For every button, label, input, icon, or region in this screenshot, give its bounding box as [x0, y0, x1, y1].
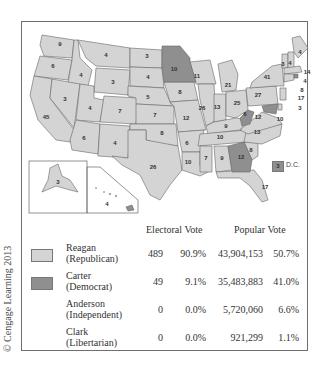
svg-text:27: 27	[255, 92, 262, 98]
svg-text:10: 10	[185, 159, 192, 165]
electoral-vote-header: Electoral Vote	[146, 224, 203, 235]
table-row-carter: Carter (Democrat) 49 9.1% 35,483,883 41.…	[21, 270, 308, 298]
candidate-party: (Republican)	[66, 253, 118, 264]
table-row-reagan: Reagan (Republican) 489 90.9% 43,904,153…	[21, 242, 308, 270]
popular-votes: 43,904,153	[218, 248, 263, 259]
state-fl	[216, 170, 268, 202]
svg-text:45: 45	[43, 114, 50, 120]
popular-pct: 50.7%	[273, 248, 299, 259]
electoral-votes: 49	[153, 276, 163, 287]
popular-votes: 5,720,060	[223, 304, 263, 315]
electoral-votes: 0	[158, 304, 163, 315]
electoral-votes: 0	[158, 332, 163, 343]
svg-text:10: 10	[171, 66, 178, 72]
popular-pct: 1.1%	[278, 332, 299, 343]
svg-text:10: 10	[217, 134, 224, 140]
svg-text:8: 8	[300, 87, 304, 93]
dc-swatch: 3	[272, 161, 284, 172]
electoral-votes: 489	[148, 248, 163, 259]
state-wa	[40, 35, 74, 58]
popular-pct: 6.6%	[278, 304, 299, 315]
carter-swatch	[31, 277, 53, 290]
results-table: Electoral Vote Popular Vote Reagan (Repu…	[21, 222, 308, 350]
svg-text:3: 3	[298, 105, 302, 111]
state-md	[262, 104, 278, 114]
candidate-party: (Democrat)	[66, 281, 112, 292]
electoral-pct: 90.9%	[180, 248, 206, 259]
svg-text:26: 26	[199, 105, 206, 111]
svg-text:17: 17	[262, 184, 269, 190]
candidate-name: Clark	[66, 326, 117, 337]
popular-vote-header: Popular Vote	[234, 224, 286, 235]
state-pa	[246, 86, 278, 106]
table-row-anderson: Anderson (Independent) 0 0.0% 5,720,060 …	[21, 298, 308, 326]
electoral-pct: 0.0%	[185, 304, 206, 315]
svg-text:4: 4	[303, 78, 307, 84]
popular-votes: 921,299	[231, 332, 264, 343]
popular-votes: 35,483,883	[218, 276, 263, 287]
svg-text:13: 13	[254, 129, 261, 135]
svg-text:10: 10	[277, 116, 284, 122]
svg-text:14: 14	[304, 69, 311, 75]
svg-text:12: 12	[238, 154, 245, 160]
svg-text:26: 26	[150, 164, 157, 170]
svg-text:4: 4	[105, 201, 109, 207]
svg-text:17: 17	[298, 95, 305, 101]
state-ri	[294, 74, 298, 78]
svg-text:41: 41	[264, 74, 271, 80]
electoral-pct: 9.1%	[185, 276, 206, 287]
candidate-name: Carter	[66, 270, 112, 281]
svg-text:11: 11	[194, 73, 201, 79]
us-electoral-map: 9645 434 347 643 457 82610 8126 101126 2…	[0, 0, 326, 230]
electoral-pct: 0.0%	[185, 332, 206, 343]
svg-text:13: 13	[214, 104, 221, 110]
state-nj	[280, 88, 286, 100]
popular-pct: 41.0%	[273, 276, 299, 287]
state-ak	[42, 164, 78, 192]
candidate-party: (Independent)	[66, 309, 122, 320]
candidate-name: Reagan	[66, 242, 118, 253]
candidate-name: Anderson	[66, 298, 122, 309]
svg-text:21: 21	[225, 82, 232, 88]
state-ct	[284, 74, 294, 82]
reagan-swatch	[31, 249, 53, 262]
state-de	[278, 104, 282, 110]
svg-text:12: 12	[183, 115, 190, 121]
svg-text:25: 25	[234, 100, 241, 106]
state-mn	[162, 46, 196, 82]
copyright-text: © Cengage Learning 2013	[2, 246, 13, 352]
candidate-party: (Libertarian)	[66, 337, 117, 348]
svg-text:12: 12	[255, 114, 262, 120]
dc-label: D.C.	[286, 161, 300, 168]
state-hi	[126, 205, 134, 211]
table-row-clark: Clark (Libertarian) 0 0.0% 921,299 1.1%	[21, 326, 308, 354]
